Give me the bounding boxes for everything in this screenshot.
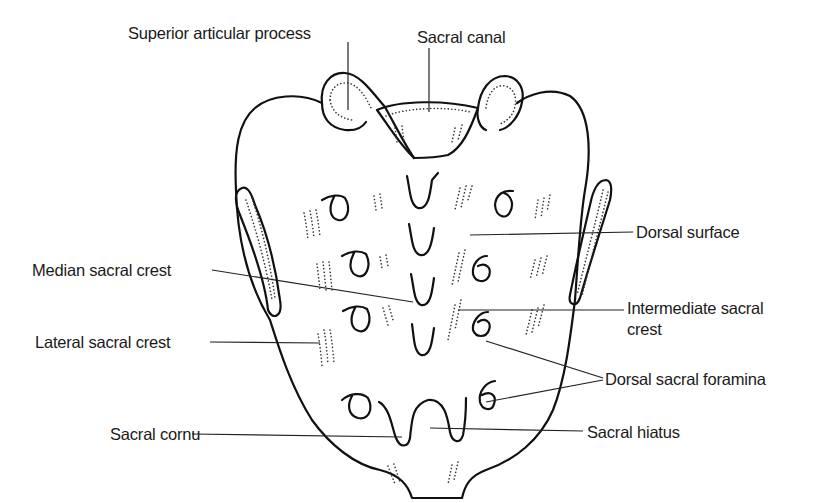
left-foramen-1 [322,196,348,221]
median-crest-tubercle-2 [409,224,434,255]
left-foramen-3 [343,307,369,332]
label-lateral-sacral-crest: Lateral sacral crest [35,333,170,352]
left-foramen-4 [342,394,370,418]
label-intermediate-sacral-crest-1: Intermediate sacral [627,299,764,318]
label-sacral-canal: Sacral canal [417,28,505,47]
label-sacral-cornu: Sacral cornu [110,425,200,444]
right-foramen-3 [473,312,490,336]
label-dorsal-surface: Dorsal surface [636,223,740,242]
label-superior-articular-process: Superior articular process [128,24,311,43]
median-crest-tubercle-1 [407,173,438,208]
leader-sacral-hiatus [430,428,583,431]
median-crest-tubercle-4 [412,324,434,355]
sacral-hiatus-outline [379,398,466,446]
sacrum-diagram: Superior articular process Sacral canal … [0,0,837,503]
label-intermediate-sacral-crest-2: crest [627,320,662,339]
label-sacral-hiatus: Sacral hiatus [587,423,680,442]
leader-lateral-sacral-crest [210,342,320,343]
leader-median-sacral-crest [212,270,413,302]
leader-dorsal-sacral-foramina-1 [486,341,603,378]
leader-sacral-cornu [192,434,402,437]
sacrum-outline [236,92,589,498]
left-foramen-2 [342,252,368,277]
left-articular-process [322,73,414,158]
leader-dorsal-sacral-foramina-2 [486,380,603,402]
right-foramen-4 [480,381,495,409]
median-crest-tubercle-3 [411,274,434,305]
right-foramen-2 [473,256,490,281]
label-dorsal-sacral-foramina: Dorsal sacral foramina [605,370,766,389]
leader-dorsal-surface [470,232,633,235]
right-foramen-1 [495,191,513,217]
label-median-sacral-crest: Median sacral crest [32,261,171,280]
